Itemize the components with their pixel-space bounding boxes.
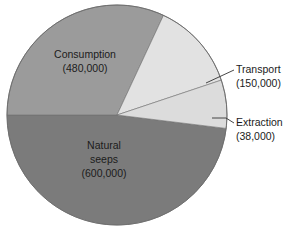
callout-label-extraction-value: (38,000) <box>236 130 275 142</box>
pie-chart-svg: Consumption(480,000)Naturalseeps(600,000… <box>0 0 303 230</box>
callout-label-transport-name: Transport <box>236 63 281 75</box>
slice-label-consumption-value: (480,000) <box>63 62 108 74</box>
callout-label-extraction-name: Extraction <box>236 116 283 128</box>
slice-label-natural-seeps-value: (600,000) <box>82 167 127 179</box>
pie-chart: Consumption(480,000)Naturalseeps(600,000… <box>0 0 303 230</box>
slice-label-natural-seeps-name2: seeps <box>90 153 118 165</box>
callout-label-transport-value: (150,000) <box>236 77 281 89</box>
slice-label-consumption-name: Consumption <box>54 48 116 60</box>
slice-label-natural-seeps-name1: Natural <box>87 139 121 151</box>
